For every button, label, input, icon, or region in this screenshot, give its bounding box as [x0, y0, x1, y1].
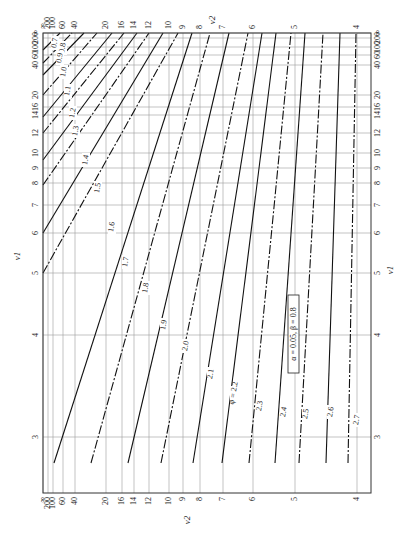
annotation-box: α = 0.05, β = 0.8	[288, 295, 299, 373]
tick-label-right-nu1: 6	[373, 231, 382, 235]
tick-label-bottom-nu2: 60	[58, 497, 67, 505]
annotation-alpha-beta: α = 0.05, β = 0.8	[289, 307, 298, 360]
tick-label-left-nu1: 40	[31, 61, 40, 69]
tick-label-top-nu2: 14	[129, 21, 138, 29]
tick-label-left-nu1: 5	[31, 271, 40, 275]
tick-label-bottom-nu2: 6	[248, 497, 257, 501]
tick-label-bottom-nu2: 10	[164, 497, 173, 505]
axis-title-bottom: ν2	[182, 515, 192, 524]
curve-label-1.1: 1.1	[62, 85, 73, 96]
tick-label-top-nu2: 4	[352, 25, 361, 29]
tick-label-top-nu2: 20	[101, 21, 110, 29]
tick-label-top-nu2: 7	[218, 25, 227, 29]
phi-curve-2.3	[249, 33, 291, 463]
grid-lines	[43, 33, 371, 493]
tick-label-bottom-nu2: 7	[218, 497, 227, 501]
tick-label-top-nu2: 100	[48, 17, 57, 29]
curve-label-2.3: 2.3	[254, 400, 265, 411]
tick-label-bottom-nu2: 12	[144, 497, 153, 505]
phi-curve-1.9	[128, 33, 229, 463]
tick-label-top-nu2: 40	[70, 21, 79, 29]
tick-label-right-nu1: 16	[373, 103, 382, 111]
phi-curve-1.8	[91, 33, 210, 463]
phi-curve-2.5	[299, 33, 323, 463]
tick-label-bottom-nu2: 20	[101, 497, 110, 505]
tick-label-right-nu1: 5	[373, 271, 382, 275]
tick-label-top-nu2: 16	[117, 21, 126, 29]
tick-label-right-nu1: 9	[373, 166, 382, 170]
curve-label-2.7: 2.7	[351, 414, 362, 425]
power-chart: 0.70.80.91.01.11.21.31.41.51.61.71.81.92…	[0, 0, 409, 534]
tick-label-bottom-nu2: 8	[195, 497, 204, 501]
curve-label-2.6: 2.6	[325, 406, 336, 417]
tick-label-top-nu2: 9	[178, 25, 187, 29]
tick-label-top-nu2: 6	[248, 25, 257, 29]
tick-label-left-nu1: 20	[31, 91, 40, 99]
axis-title-left: ν1	[12, 252, 22, 261]
phi-curve-2.6	[326, 33, 340, 463]
tick-label-bottom-nu2: 4	[352, 497, 361, 501]
curve-label-1.0: 1.0	[58, 66, 69, 77]
tick-label-left-nu1: 10	[31, 149, 40, 157]
tick-label-top-nu2: 5	[290, 25, 299, 29]
curve-label-1.3: 1.3	[70, 125, 81, 136]
tick-label-left-nu1: 3	[31, 435, 40, 439]
tick-label-bottom-nu2: 100	[48, 497, 57, 509]
tick-label-bottom-nu2: 14	[129, 497, 138, 505]
tick-label-top-nu2: 10	[164, 21, 173, 29]
tick-label-bottom-nu2: 16	[117, 497, 126, 505]
tick-label-left-nu1: 6	[31, 231, 40, 235]
tick-label-top-nu2: 12	[144, 21, 153, 29]
tick-label-top-nu2: 60	[58, 21, 67, 29]
tick-label-right-nu1: 40	[373, 61, 382, 69]
curve-label-1.9: 1.9	[158, 319, 169, 330]
tick-label-bottom-nu2: 5	[290, 497, 299, 501]
tick-label-right-nu1: 8	[373, 181, 382, 185]
curve-label-1.5: 1.5	[92, 182, 103, 193]
curve-label-1.8: 1.8	[140, 282, 151, 293]
tick-label-right-nu1: 20	[373, 91, 382, 99]
tick-label-bottom-nu2: 9	[178, 497, 187, 501]
curve-label-2.5: 2.5	[300, 408, 311, 419]
tick-label-right-nu1: 14	[373, 111, 382, 119]
tick-label-bottom-nu2: 40	[70, 497, 79, 505]
curve-label-2.4: 2.4	[278, 406, 289, 417]
tick-label-right-nu1: 10	[373, 149, 382, 157]
curve-label-2.0: 2.0	[180, 340, 191, 351]
tick-label-right-nu1: 7	[373, 203, 382, 207]
phi-curves	[43, 33, 356, 463]
phi-curve-2.7	[348, 33, 356, 463]
tick-label-left-nu1: 8	[31, 181, 40, 185]
curve-label-1.6: 1.6	[106, 221, 117, 232]
curve-label-0.9: 0.9	[54, 52, 65, 63]
tick-label-left-nu1: 9	[31, 166, 40, 170]
tick-label-left-nu1: 7	[31, 203, 40, 207]
tick-label-top-nu2: 8	[195, 25, 204, 29]
curve-label-1.2: 1.2	[67, 107, 78, 118]
curve-label-1.4: 1.4	[80, 154, 91, 165]
tick-label-right-nu1: 4	[373, 333, 382, 337]
plot-frame	[43, 33, 371, 493]
tick-label-left-nu1: 4	[31, 333, 40, 337]
tick-label-right-nu1: 3	[373, 435, 382, 439]
tick-label-right-nu1: 12	[373, 129, 382, 137]
tick-label-left-nu1: 16	[31, 103, 40, 111]
tick-label-left-nu1: 12	[31, 129, 40, 137]
tick-label-right-nu1: 60	[373, 51, 382, 59]
phi-curve-2.4	[275, 33, 305, 463]
curve-label-2.2: φ = 2.2	[227, 381, 240, 405]
tick-label-left-nu1: 60	[31, 51, 40, 59]
axis-title-right: ν1	[385, 266, 395, 275]
curve-labels: 0.70.80.91.01.11.21.31.41.51.61.71.81.92…	[49, 36, 362, 427]
axis-title-top: ν2	[207, 15, 217, 24]
tick-label-left-nu1: 14	[31, 111, 40, 119]
curve-label-1.7: 1.7	[120, 256, 131, 267]
curve-label-2.1: 2.1	[205, 368, 216, 379]
